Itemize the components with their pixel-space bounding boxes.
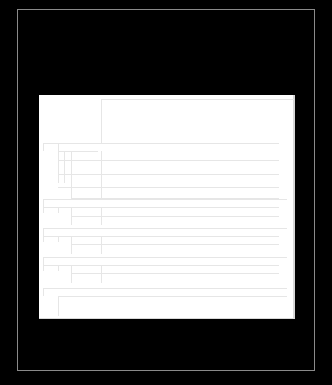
vertical-rule (71, 236, 72, 254)
horizontal-rule (43, 236, 279, 237)
vertical-rule (101, 265, 102, 283)
vertical-rule (101, 151, 102, 199)
horizontal-rule (71, 216, 279, 217)
vertical-rule (43, 199, 44, 213)
vertical-rule (71, 207, 72, 225)
horizontal-rule (71, 273, 279, 274)
vertical-rule (58, 143, 59, 183)
horizontal-rule (71, 244, 279, 245)
vertical-rule (58, 296, 59, 316)
vertical-rule (43, 257, 44, 271)
vertical-rule (43, 143, 44, 151)
vertical-rule (64, 151, 65, 183)
vertical-rule (101, 207, 102, 225)
vertical-rule (71, 265, 72, 283)
horizontal-rule (43, 257, 287, 258)
vertical-rule (58, 207, 59, 213)
vertical-rule (43, 288, 44, 296)
header-box (101, 99, 294, 144)
horizontal-rule (43, 228, 287, 229)
horizontal-rule (43, 199, 287, 200)
horizontal-rule (58, 296, 287, 297)
vertical-rule (71, 151, 72, 199)
vertical-rule (43, 228, 44, 242)
vertical-rule (58, 265, 59, 271)
vertical-rule (101, 236, 102, 254)
horizontal-rule (58, 174, 279, 175)
horizontal-rule (43, 207, 279, 208)
horizontal-rule (58, 187, 279, 188)
vertical-rule (58, 236, 59, 242)
horizontal-rule (43, 143, 279, 144)
horizontal-rule (43, 265, 279, 266)
horizontal-rule (43, 288, 287, 289)
document-page (39, 95, 295, 319)
horizontal-rule (58, 160, 279, 161)
